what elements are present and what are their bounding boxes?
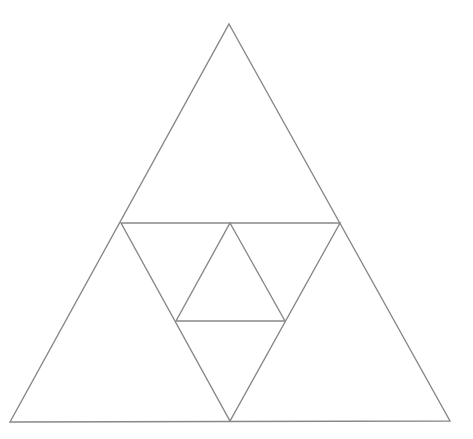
- midpoint-triangle: [121, 223, 340, 421]
- inner-triangle: [176, 223, 285, 321]
- nested-triangle-diagram: [0, 0, 473, 439]
